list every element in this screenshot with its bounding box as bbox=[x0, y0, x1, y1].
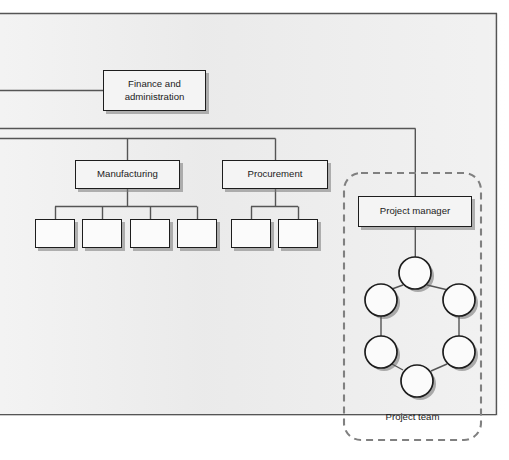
project-team-caption: Project team bbox=[344, 411, 481, 422]
diagram-canvas: Finance and administration Manufacturing… bbox=[0, 0, 509, 460]
node-procurement[interactable]: Procurement bbox=[222, 160, 328, 189]
team-member-bottom[interactable] bbox=[401, 365, 433, 397]
team-member-lower-right[interactable] bbox=[443, 336, 475, 368]
node-finance-and-administration[interactable]: Finance and administration bbox=[103, 70, 206, 111]
node-manufacturing-label: Manufacturing bbox=[97, 168, 158, 180]
node-procurement-child-2[interactable] bbox=[278, 219, 318, 248]
node-procurement-child-1[interactable] bbox=[231, 219, 271, 248]
team-member-upper-left[interactable] bbox=[365, 284, 397, 316]
team-link-top-upperleft bbox=[392, 285, 403, 289]
team-link-lowerright-bottom bbox=[431, 364, 447, 371]
node-manufacturing-child-3[interactable] bbox=[130, 219, 170, 248]
node-project-manager[interactable]: Project manager bbox=[358, 196, 472, 227]
node-procurement-label: Procurement bbox=[248, 168, 303, 180]
team-member-top[interactable] bbox=[399, 257, 431, 289]
team-member-upper-right[interactable] bbox=[443, 284, 475, 316]
project-team-caption-text: Project team bbox=[386, 411, 440, 422]
node-project-manager-label: Project manager bbox=[380, 205, 450, 217]
node-manufacturing[interactable]: Manufacturing bbox=[75, 160, 180, 189]
node-finance-label-line1: Finance and bbox=[128, 78, 181, 89]
node-manufacturing-child-4[interactable] bbox=[177, 219, 217, 248]
node-manufacturing-child-2[interactable] bbox=[82, 219, 122, 248]
node-finance-label: Finance and administration bbox=[125, 78, 185, 103]
team-member-lower-left[interactable] bbox=[365, 336, 397, 368]
node-finance-label-line2: administration bbox=[125, 91, 185, 102]
node-manufacturing-child-1[interactable] bbox=[35, 219, 75, 248]
